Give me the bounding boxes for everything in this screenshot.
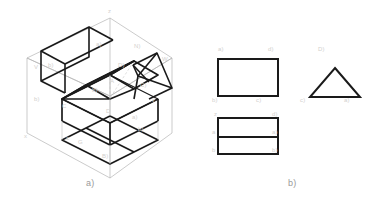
frontal-projection-depth-right (89, 27, 113, 40)
technical-drawing-figure: z a) V b) D) W N) C) A b) y C b) D a) x … (0, 0, 372, 204)
top-view-group (218, 118, 278, 154)
profile-plane-projection (133, 53, 172, 99)
base-box-bottom-right (110, 121, 158, 145)
figure-canvas (0, 0, 372, 204)
frontal-plane-projection (41, 27, 113, 93)
base-box-bottom-left (62, 121, 110, 145)
front-view-rectangle (218, 59, 278, 96)
profile-projection-depth-d (149, 88, 172, 99)
panel-b-caption: b) (288, 178, 297, 188)
panel-a-caption: a) (86, 178, 95, 188)
side-view-triangle (310, 68, 360, 97)
frontal-projection-lower-edge (41, 81, 65, 93)
frontal-projection-depth-top (41, 51, 65, 64)
